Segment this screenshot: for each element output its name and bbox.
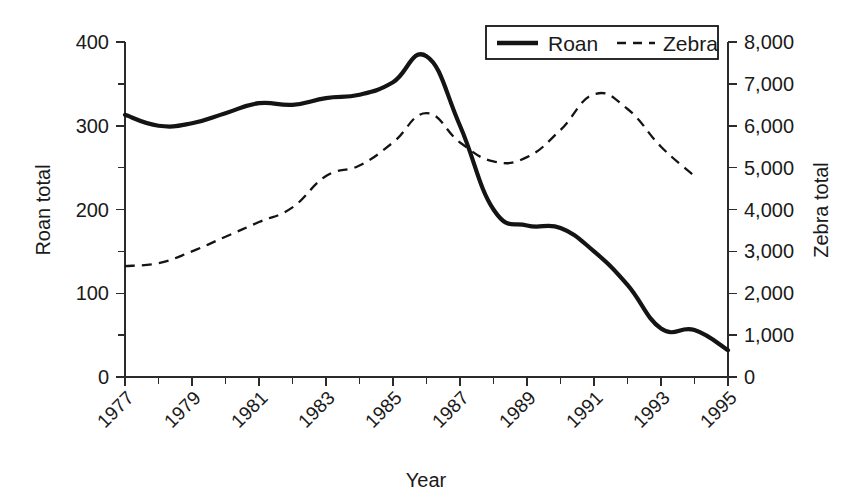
left-tick-label: 100 xyxy=(76,282,109,304)
x-tick-label: 1981 xyxy=(227,387,272,432)
right-tick-label: 6,000 xyxy=(744,115,794,137)
x-tick-label: 1987 xyxy=(428,387,473,432)
x-tick-label: 1985 xyxy=(361,387,406,432)
x-axis-tick-labels: 1977197919811983198519871989199119931995 xyxy=(93,387,741,432)
right-tick-label: 2,000 xyxy=(744,282,794,304)
left-tick-label: 0 xyxy=(98,366,109,388)
right-tick-label: 3,000 xyxy=(744,240,794,262)
x-tick-label: 1983 xyxy=(294,387,339,432)
x-tick-label: 1979 xyxy=(160,387,205,432)
chart-canvas: 0100200300400 01,0002,0003,0004,0005,000… xyxy=(0,0,863,503)
x-tick-label: 1991 xyxy=(562,387,607,432)
legend: Roan Zebra xyxy=(486,26,718,59)
legend-label-roan: Roan xyxy=(548,32,598,55)
right-tick-label: 4,000 xyxy=(744,199,794,221)
right-axis-title: Zebra total xyxy=(810,162,832,258)
x-tick-label: 1989 xyxy=(495,387,540,432)
plot-area xyxy=(125,42,728,377)
left-axis-ticks: 0100200300400 xyxy=(76,31,125,388)
x-tick-label: 1995 xyxy=(696,387,741,432)
left-axis-title: Roan total xyxy=(32,164,54,255)
legend-label-zebra: Zebra xyxy=(663,32,718,55)
x-tick-label: 1993 xyxy=(629,387,674,432)
x-axis-title: Year xyxy=(406,469,447,491)
chart-figure: 0100200300400 01,0002,0003,0004,0005,000… xyxy=(0,0,863,503)
left-tick-label: 300 xyxy=(76,115,109,137)
right-tick-label: 1,000 xyxy=(744,324,794,346)
right-axis-ticks: 01,0002,0003,0004,0005,0006,0007,0008,00… xyxy=(728,31,794,388)
right-tick-label: 7,000 xyxy=(744,73,794,95)
x-axis-ticks xyxy=(125,377,728,386)
right-tick-label: 5,000 xyxy=(744,157,794,179)
right-tick-label: 0 xyxy=(744,366,755,388)
left-tick-label: 200 xyxy=(76,199,109,221)
series-line-roan xyxy=(125,54,728,350)
x-tick-label: 1977 xyxy=(93,387,138,432)
left-tick-label: 400 xyxy=(76,31,109,53)
right-tick-label: 8,000 xyxy=(744,31,794,53)
